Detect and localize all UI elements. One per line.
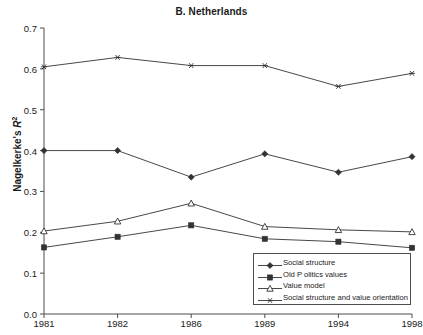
square-icon <box>189 223 194 228</box>
series-line <box>44 151 412 178</box>
marker-filled-diamond <box>262 151 268 157</box>
data-series <box>41 147 415 180</box>
marker-filled-square <box>409 245 414 250</box>
legend: Social structureOld P olitics valuesValu… <box>253 253 411 305</box>
legend-symbol <box>257 257 283 268</box>
square-icon <box>115 234 120 239</box>
square-icon <box>41 245 46 250</box>
series-line <box>44 203 412 232</box>
marker-filled-diamond <box>115 147 121 153</box>
data-series-group <box>41 55 415 250</box>
diamond-icon <box>409 154 415 160</box>
diamond-icon <box>115 147 121 153</box>
marker-asterisk <box>409 71 415 76</box>
marker-filled-square <box>115 234 120 239</box>
marker-asterisk <box>335 84 341 89</box>
diamond-icon <box>262 151 268 157</box>
legend-label: Social structure <box>283 258 335 267</box>
legend-item[interactable]: Social structure <box>257 257 410 269</box>
marker-filled-square <box>336 239 341 244</box>
square-icon <box>267 275 272 280</box>
legend-item[interactable]: Value model <box>257 280 410 292</box>
marker-filled-square <box>267 275 272 280</box>
data-series <box>41 200 415 235</box>
legend-symbol <box>257 292 283 303</box>
chart-figure: B. Netherlands Nagelkerke's R2 0.00.10.2… <box>0 0 423 335</box>
data-series <box>41 223 414 251</box>
marker-open-triangle <box>188 200 194 206</box>
legend-label: Value model <box>283 281 325 290</box>
marker-asterisk <box>115 55 121 60</box>
series-line <box>44 225 412 247</box>
square-icon <box>409 245 414 250</box>
legend-label: Old P olitics values <box>283 270 347 279</box>
diamond-icon <box>335 169 341 175</box>
marker-filled-diamond <box>335 169 341 175</box>
marker-filled-diamond <box>409 154 415 160</box>
marker-filled-square <box>189 223 194 228</box>
marker-asterisk <box>188 63 194 68</box>
marker-filled-diamond <box>41 147 47 153</box>
triangle-icon <box>188 200 194 206</box>
legend-label: Social structure and value orientation <box>283 293 408 302</box>
legend-symbol <box>257 269 283 280</box>
square-icon <box>336 239 341 244</box>
marker-asterisk <box>262 63 268 68</box>
diamond-icon <box>188 174 194 180</box>
marker-filled-square <box>262 236 267 241</box>
legend-item[interactable]: Social structure and value orientation <box>257 292 410 304</box>
data-series <box>41 55 415 89</box>
marker-filled-diamond <box>188 174 194 180</box>
diamond-icon <box>41 147 47 153</box>
marker-filled-square <box>41 245 46 250</box>
series-line <box>44 57 412 86</box>
legend-item[interactable]: Old P olitics values <box>257 269 410 281</box>
marker-asterisk <box>267 298 273 303</box>
square-icon <box>262 236 267 241</box>
legend-symbol <box>257 280 283 291</box>
legend-marker-svg <box>257 295 283 306</box>
